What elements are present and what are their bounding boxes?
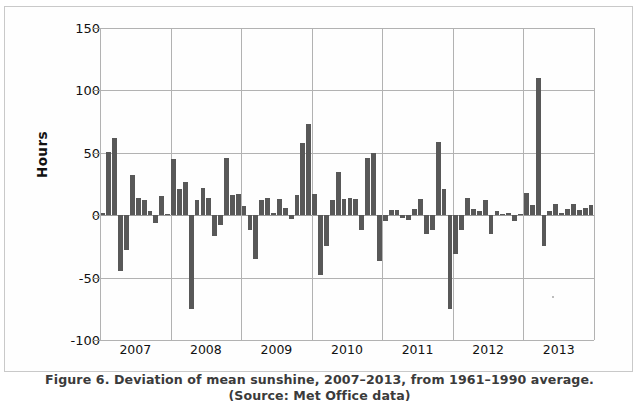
x-tick-label: 2013: [543, 342, 575, 357]
x-tick-label: 2008: [190, 342, 222, 357]
bar: [289, 215, 294, 219]
y-tick-mark: [93, 28, 100, 29]
bar: [365, 158, 370, 215]
bar: [236, 194, 241, 215]
bar: [489, 215, 494, 234]
bar: [212, 215, 217, 236]
bar: [153, 215, 158, 222]
y-tick-mark: [93, 153, 100, 154]
bar: [418, 199, 423, 215]
bar: [142, 200, 147, 215]
x-tick-label: 2011: [402, 342, 434, 357]
bar: [553, 204, 558, 215]
bar: [348, 198, 353, 215]
y-tick-mark: [93, 215, 100, 216]
bar: [377, 215, 382, 261]
caption-line-1: Figure 6. Deviation of mean sunshine, 20…: [0, 372, 639, 388]
bar: [283, 208, 288, 215]
bar: [277, 199, 282, 215]
bar: [218, 215, 223, 225]
y-tick-mark: [93, 340, 100, 341]
x-tick-label: 2009: [261, 342, 293, 357]
bar: [471, 209, 476, 215]
bar: [336, 172, 341, 216]
y-tick-mark: [93, 278, 100, 279]
bar: [224, 158, 229, 215]
figure-caption: Figure 6. Deviation of mean sunshine, 20…: [0, 372, 639, 401]
bar: [518, 214, 523, 216]
bar: [300, 143, 305, 215]
bar: [318, 215, 323, 275]
x-tick-label: 2007: [119, 342, 151, 357]
y-axis: Hours 150100500-50-100: [40, 28, 100, 340]
bar: [395, 210, 400, 215]
bar: [330, 200, 335, 215]
bar: [406, 215, 411, 220]
bar: [424, 215, 429, 234]
bar: [242, 206, 247, 215]
bar: [295, 195, 300, 215]
bar: [547, 211, 552, 215]
x-tick-label: 2012: [472, 342, 504, 357]
bar: [589, 205, 594, 215]
bar: [565, 209, 570, 215]
bar: [106, 152, 111, 216]
bar: [259, 200, 264, 215]
bar: [148, 211, 153, 215]
bar: [383, 215, 388, 221]
bar: [201, 188, 206, 215]
scan-speck: [552, 296, 554, 298]
bar: [571, 204, 576, 215]
bar: [195, 200, 200, 215]
y-tick-mark: [93, 90, 100, 91]
bar: [306, 124, 311, 215]
bar: [136, 198, 141, 215]
caption-line-2: (Source: Met Office data): [0, 388, 639, 401]
plot-area: [100, 28, 594, 340]
bar: [253, 215, 258, 259]
bar: [500, 214, 505, 216]
bar: [130, 175, 135, 215]
bar: [495, 211, 500, 215]
bar: [177, 189, 182, 215]
bar: [412, 209, 417, 215]
bar: [583, 208, 588, 215]
bar: [206, 198, 211, 215]
x-axis: 2007200820092010201120122013: [100, 342, 594, 360]
bar: [371, 153, 376, 215]
bar: [559, 213, 564, 215]
bar: [448, 215, 453, 309]
bar: [530, 205, 535, 215]
bar: [124, 215, 129, 250]
bar: [118, 215, 123, 271]
bar: [271, 213, 276, 215]
bar: [453, 215, 458, 254]
y-axis-title: Hours: [34, 131, 50, 178]
bar: [312, 194, 317, 215]
bar: [248, 215, 253, 230]
bar: [112, 138, 117, 215]
bar: [265, 198, 270, 215]
bar: [183, 182, 188, 216]
bar: [400, 215, 405, 217]
bar: [165, 214, 170, 216]
bar: [512, 215, 517, 221]
bar: [430, 215, 435, 230]
bar: [477, 211, 482, 215]
bar: [442, 189, 447, 215]
bar: [465, 198, 470, 215]
bar: [536, 78, 541, 215]
bar: [353, 199, 358, 215]
bar: [524, 193, 529, 215]
bar: [389, 210, 394, 215]
bar: [342, 199, 347, 215]
bar: [577, 210, 582, 215]
bar: [101, 213, 106, 215]
x-tick-label: 2010: [331, 342, 363, 357]
gridline--100: [100, 340, 594, 341]
bar: [459, 215, 464, 230]
bar: [483, 200, 488, 215]
bar-series: [100, 28, 594, 340]
bar: [171, 159, 176, 215]
bar: [506, 213, 511, 215]
